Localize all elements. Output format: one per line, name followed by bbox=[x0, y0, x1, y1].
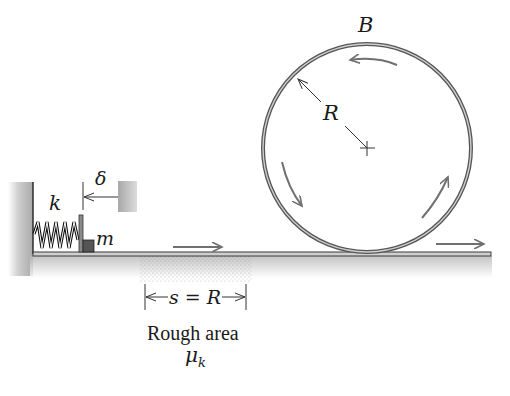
physics-diagram: B R k m δ s = R Rough area μk bbox=[0, 0, 510, 396]
arrow-loop-right bbox=[422, 177, 448, 218]
label-point-b: B bbox=[358, 15, 373, 36]
label-rough-area: Rough area bbox=[147, 323, 239, 343]
spring bbox=[34, 222, 78, 248]
motion-arrows bbox=[173, 59, 484, 247]
mu-symbol: μ bbox=[185, 343, 198, 367]
label-radius: R bbox=[323, 103, 339, 124]
ground bbox=[30, 252, 492, 282]
mass-block bbox=[79, 215, 94, 252]
label-mu-k: μk bbox=[185, 345, 206, 369]
stop-block bbox=[118, 181, 137, 212]
label-spring-k: k bbox=[49, 193, 61, 213]
diagram-canvas bbox=[0, 0, 510, 396]
label-distance: s = R bbox=[169, 288, 221, 307]
arrow-loop-left bbox=[282, 162, 302, 206]
label-delta: δ bbox=[95, 169, 106, 188]
arrow-loop-top bbox=[350, 59, 397, 65]
mu-subscript: k bbox=[198, 355, 206, 370]
label-mass-m: m bbox=[96, 229, 114, 248]
rough-area-patch bbox=[140, 256, 252, 282]
wall bbox=[8, 182, 33, 276]
